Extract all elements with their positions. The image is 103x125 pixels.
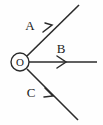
vector-label-c: C: [27, 85, 36, 100]
vector-diagram: O A B C: [0, 0, 103, 125]
vector-label-b: B: [57, 41, 66, 56]
vector-diagram-canvas: O A B C: [0, 0, 103, 125]
vector-line-a: [27, 5, 79, 56]
vector-arrowhead-a: [43, 23, 52, 32]
vector-arrowhead-c: [44, 88, 53, 97]
vector-label-a: A: [25, 18, 35, 33]
origin-label: O: [16, 56, 24, 68]
